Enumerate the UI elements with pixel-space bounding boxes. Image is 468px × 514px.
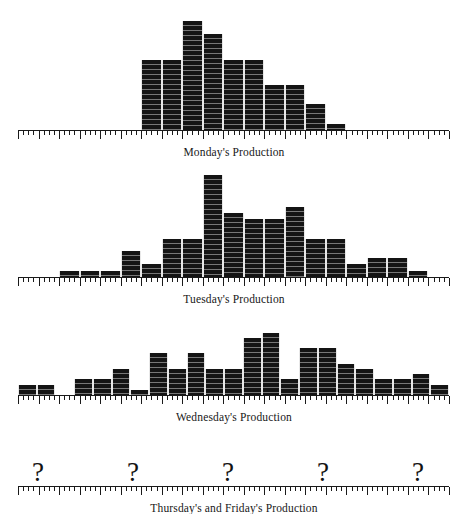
axis-tick-minor: [382, 278, 383, 282]
axis-tick-minor: [352, 487, 353, 491]
axis-tick-minor: [249, 396, 250, 400]
axis-tick-minor: [341, 131, 342, 135]
axis-tick-minor: [115, 278, 116, 282]
axis-tick-minor: [254, 131, 255, 135]
x-axis-thursday-friday: [18, 486, 449, 498]
histogram-bar: [223, 60, 244, 130]
axis-tick-minor: [28, 487, 29, 491]
axis-tick-minor: [357, 278, 358, 282]
axis-tick-minor: [44, 131, 45, 135]
histogram-bar: [387, 258, 408, 277]
axis-tick-minor: [357, 487, 358, 491]
axis-tick-minor: [280, 396, 281, 400]
unknown-question-mark: ?: [222, 459, 234, 486]
axis-tick-major: [100, 396, 101, 404]
axis-tick-minor: [151, 278, 152, 282]
axis-tick-minor: [336, 396, 337, 400]
axis-tick-major: [59, 396, 60, 404]
axis-tick-major: [39, 487, 40, 495]
axis-tick-minor: [23, 487, 24, 491]
axis-tick-minor: [126, 487, 127, 491]
axis-tick-minor: [151, 131, 152, 135]
axis-tick-major: [18, 396, 19, 404]
axis-tick-minor: [382, 396, 383, 400]
axis-tick-major: [326, 278, 327, 286]
axis-tick-minor: [403, 396, 404, 400]
axis-tick-major: [428, 131, 429, 139]
axis-tick-major: [346, 396, 347, 404]
axis-tick-minor: [28, 396, 29, 400]
axis-tick-minor: [234, 278, 235, 282]
axis-tick-minor: [423, 487, 424, 491]
axis-tick-minor: [198, 396, 199, 400]
axis-tick-minor: [218, 487, 219, 491]
axis-tick-minor: [352, 278, 353, 282]
axis-tick-minor: [372, 278, 373, 282]
axis-tick-minor: [341, 396, 342, 400]
axis-tick-minor: [403, 278, 404, 282]
histogram-bar: [393, 379, 412, 395]
axis-tick-major: [100, 278, 101, 286]
axis-tick-minor: [254, 487, 255, 491]
axis-tick-minor: [295, 131, 296, 135]
axis-tick-minor: [28, 131, 29, 135]
plot-area-monday: [0, 10, 468, 130]
axis-tick-major: [80, 487, 81, 495]
axis-tick-major: [449, 487, 450, 495]
axis-tick-minor: [275, 396, 276, 400]
axis-tick-major: [223, 487, 224, 495]
axis-tick-minor: [352, 396, 353, 400]
histogram-bar: [318, 348, 337, 395]
axis-tick-minor: [444, 487, 445, 491]
axis-tick-minor: [259, 131, 260, 135]
axis-tick-major: [18, 487, 19, 495]
axis-tick-minor: [228, 396, 229, 400]
axis-tick-minor: [64, 396, 65, 400]
histogram-bar: [223, 213, 244, 277]
axis-tick-minor: [269, 278, 270, 282]
axis-tick-major: [428, 396, 429, 404]
axis-tick-minor: [331, 278, 332, 282]
axis-tick-minor: [377, 278, 378, 282]
axis-tick-minor: [187, 487, 188, 491]
axis-tick-minor: [377, 487, 378, 491]
axis-tick-minor: [69, 131, 70, 135]
axis-tick-major: [244, 131, 245, 139]
histogram-bar: [264, 219, 285, 277]
axis-tick-minor: [85, 396, 86, 400]
axis-tick-major: [264, 278, 265, 286]
axis-tick-minor: [434, 396, 435, 400]
axis-tick-minor: [74, 487, 75, 491]
axis-tick-minor: [90, 278, 91, 282]
histogram-bar: [93, 379, 112, 395]
axis-tick-major: [449, 396, 450, 404]
axis-tick-minor: [259, 278, 260, 282]
axis-tick-minor: [377, 396, 378, 400]
axis-tick-minor: [33, 131, 34, 135]
axis-tick-major: [367, 487, 368, 495]
axis-tick-minor: [372, 487, 373, 491]
axis-tick-minor: [208, 131, 209, 135]
axis-tick-minor: [234, 131, 235, 135]
axis-tick-minor: [316, 278, 317, 282]
axis-tick-major: [449, 278, 450, 286]
axis-tick-major: [285, 278, 286, 286]
axis-tick-minor: [198, 131, 199, 135]
axis-tick-minor: [269, 487, 270, 491]
axis-tick-minor: [228, 278, 229, 282]
axis-tick-minor: [146, 396, 147, 400]
unknown-question-mark: ?: [32, 459, 44, 486]
axis-tick-minor: [192, 487, 193, 491]
axis-tick-minor: [393, 396, 394, 400]
axis-tick-minor: [44, 487, 45, 491]
axis-tick-minor: [110, 487, 111, 491]
axis-tick-minor: [95, 131, 96, 135]
axis-tick-minor: [321, 487, 322, 491]
axis-tick-minor: [146, 131, 147, 135]
axis-tick-minor: [115, 131, 116, 135]
axis-tick-minor: [151, 487, 152, 491]
histogram-bar: [305, 104, 326, 130]
axis-tick-minor: [115, 396, 116, 400]
x-axis-tuesday: [18, 277, 449, 289]
axis-tick-minor: [357, 396, 358, 400]
